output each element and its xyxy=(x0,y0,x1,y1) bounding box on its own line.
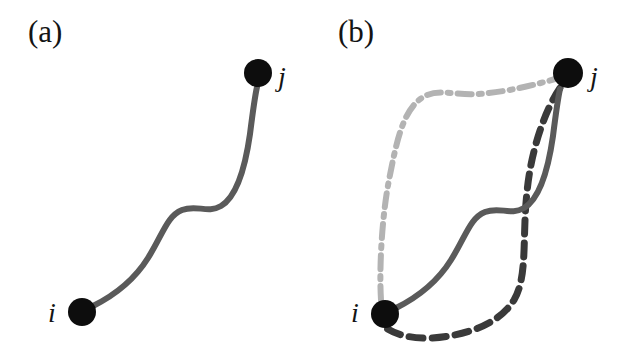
node-j-panel-a xyxy=(244,59,272,87)
figure-canvas: (a) i j (b) i j xyxy=(0,0,627,358)
panel-b-label: (b) xyxy=(338,14,374,49)
panel-b: (b) i j xyxy=(338,14,598,338)
edge-solid-panel-a xyxy=(93,87,257,306)
node-i-panel-a xyxy=(68,298,96,326)
node-j-label-panel-b: j xyxy=(587,61,598,92)
panel-a-label: (a) xyxy=(28,14,62,49)
node-i-panel-b xyxy=(371,300,399,328)
edge-solid-panel-b xyxy=(396,89,560,308)
path-diagram-svg: (a) i j (b) i j xyxy=(0,0,627,358)
node-i-label-panel-b: i xyxy=(351,297,359,328)
panel-a: (a) i j xyxy=(28,14,286,328)
node-j-label-panel-a: j xyxy=(275,61,286,92)
node-i-label-panel-a: i xyxy=(48,297,56,328)
node-j-panel-b xyxy=(553,58,583,88)
